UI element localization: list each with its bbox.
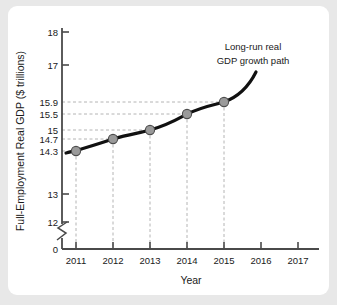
xtick-label-2011: 2011	[66, 255, 86, 266]
y-axis-ticks	[62, 32, 69, 222]
xtick-label-2013: 2013	[139, 255, 160, 266]
vertical-gridlines	[76, 102, 224, 249]
data-point-2012	[108, 134, 117, 143]
ytick-label-12: 12	[47, 217, 58, 228]
annotation-line-1: Long-run real	[225, 41, 282, 52]
x-axis-ticks	[76, 242, 298, 249]
xtick-label-2012: 2012	[102, 255, 123, 266]
figure-root: 18 17 15.9 15.5 15 14.7 14.3 13 12 0	[0, 0, 337, 305]
data-point-2015	[219, 97, 228, 106]
y-axis-title: Full-Employment Real GDP ($ trillions)	[14, 51, 26, 231]
xtick-label-2016: 2016	[250, 255, 271, 266]
x-axis-title: Year	[180, 274, 202, 286]
annotation-line-2: GDP growth path	[217, 55, 290, 66]
gdp-growth-path-chart: 18 17 15.9 15.5 15 14.7 14.3 13 12 0	[8, 6, 329, 295]
curve-annotation: Long-run real GDP growth path	[217, 41, 290, 66]
y-axis-tick-labels: 18 17 15.9 15.5 15 14.7 14.3 13 12 0	[40, 27, 59, 255]
ytick-label-0: 0	[53, 244, 58, 255]
data-point-2014	[182, 109, 191, 118]
xtick-label-2015: 2015	[213, 255, 234, 266]
ytick-label-14-3: 14.3	[40, 146, 59, 157]
xtick-label-2017: 2017	[287, 255, 308, 266]
ytick-label-14-7: 14.7	[40, 134, 59, 145]
xtick-label-2014: 2014	[176, 255, 197, 266]
ytick-label-15-5: 15.5	[40, 109, 59, 120]
chart-panel: 18 17 15.9 15.5 15 14.7 14.3 13 12 0	[8, 6, 329, 295]
ytick-label-15-9: 15.9	[40, 97, 59, 108]
ytick-label-18: 18	[47, 27, 58, 38]
ytick-label-13: 13	[47, 189, 58, 200]
data-point-2013	[145, 125, 154, 134]
ytick-label-17: 17	[47, 60, 58, 71]
data-point-2011	[71, 146, 80, 155]
growth-path-curve	[66, 72, 256, 153]
x-axis-tick-labels: 2011 2012 2013 2014 2015 2016 2017	[66, 255, 309, 266]
y-axis-break-icon	[57, 222, 67, 240]
